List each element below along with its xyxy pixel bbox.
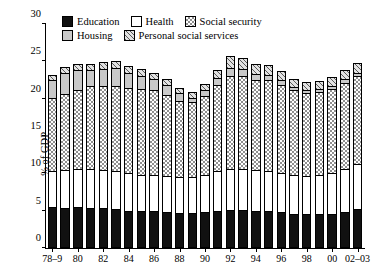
stacked-bar[interactable] [137, 69, 146, 248]
bar-group: 78–9808284868890929496980002–03 [46, 24, 364, 248]
x-tick-mark [103, 248, 104, 252]
bar-segment-health [48, 171, 57, 207]
stacked-bar[interactable] [251, 64, 260, 248]
bar-segment-education [99, 208, 108, 248]
bar-segment-social-security [353, 76, 362, 163]
stacked-bar[interactable] [289, 79, 298, 248]
bar-segment-personal-social-services [264, 65, 273, 75]
bar-slot [237, 24, 250, 248]
bar-segment-health [251, 170, 260, 210]
bar-segment-health [124, 173, 133, 210]
stacked-bar[interactable] [238, 58, 247, 248]
stacked-bar[interactable] [86, 64, 95, 248]
stacked-bar[interactable] [213, 70, 222, 248]
bar-segment-housing [48, 80, 57, 98]
bar-segment-health [340, 169, 349, 212]
bar-segment-social-security [175, 101, 184, 177]
bar-segment-education [200, 212, 209, 248]
bar-segment-health [327, 173, 336, 214]
bar-segment-personal-social-services [111, 61, 120, 68]
bar-segment-housing [86, 70, 95, 86]
bar-segment-education [86, 208, 95, 248]
stacked-bar[interactable] [111, 61, 120, 248]
stacked-bar[interactable] [315, 81, 324, 248]
stacked-bar[interactable] [264, 65, 273, 248]
bar-segment-health [137, 175, 146, 212]
y-tick-label-30: 30 [31, 8, 47, 19]
stacked-bar[interactable] [149, 73, 158, 248]
bar-slot: 96 [275, 24, 288, 248]
bar-segment-health [264, 171, 273, 211]
bar-segment-health [353, 164, 362, 210]
bar-segment-social-security [340, 83, 349, 169]
y-tick-label-0: 0 [36, 232, 46, 243]
bar-slot: 00 [326, 24, 339, 248]
bar-slot [84, 24, 97, 248]
bar-segment-health [302, 176, 311, 215]
stacked-bar[interactable] [226, 56, 235, 248]
bar-segment-housing [226, 68, 235, 76]
bar-segment-health [175, 177, 184, 213]
stacked-bar[interactable] [353, 63, 362, 248]
bar-segment-housing [73, 70, 82, 91]
x-tick-label: 90 [200, 253, 210, 264]
bar-segment-education [238, 210, 247, 248]
bar-slot: 80 [71, 24, 84, 248]
bar-segment-housing [60, 73, 69, 95]
stacked-bar[interactable] [48, 75, 57, 248]
x-tick-label: 84 [124, 253, 134, 264]
bar-segment-personal-social-services [99, 62, 108, 69]
bar-segment-personal-social-services [340, 70, 349, 80]
bar-segment-education [137, 211, 146, 248]
bar-slot: 84 [122, 24, 135, 248]
bar-segment-social-security [213, 85, 222, 172]
stacked-bar[interactable] [162, 79, 171, 248]
bar-segment-education [162, 212, 171, 248]
bar-segment-education [60, 208, 69, 248]
bar-slot [288, 24, 301, 248]
x-tick-mark [281, 248, 282, 252]
x-tick-mark [154, 248, 155, 252]
bar-slot: 82 [97, 24, 110, 248]
bar-segment-personal-social-services [226, 56, 235, 68]
stacked-bar[interactable] [99, 62, 108, 248]
bar-segment-social-security [302, 93, 311, 176]
stacked-bar[interactable] [188, 92, 197, 248]
bar-segment-personal-social-services [251, 64, 260, 74]
bar-segment-social-security [124, 88, 133, 173]
bar-segment-social-security [315, 92, 324, 175]
bar-slot: 90 [199, 24, 212, 248]
stacked-bar[interactable] [327, 77, 336, 248]
stacked-bar[interactable] [302, 82, 311, 248]
bar-segment-personal-social-services [200, 84, 209, 91]
bar-segment-social-security [99, 86, 108, 170]
bar-slot: 92 [224, 24, 237, 248]
x-tick-label: 96 [276, 253, 286, 264]
bar-segment-education [327, 214, 336, 248]
stacked-bar[interactable] [175, 88, 184, 248]
stacked-bar[interactable] [73, 64, 82, 248]
bar-segment-education [73, 207, 82, 248]
bar-segment-social-security [251, 80, 260, 170]
stacked-bar[interactable] [60, 67, 69, 248]
x-tick-label: 94 [251, 253, 261, 264]
bar-segment-personal-social-services [124, 66, 133, 73]
bar-segment-social-security [226, 76, 235, 169]
bar-segment-social-security [327, 89, 336, 173]
bar-segment-education [251, 211, 260, 248]
bar-segment-education [315, 214, 324, 248]
bar-segment-personal-social-services [149, 73, 158, 80]
stacked-bar[interactable] [277, 71, 286, 248]
bar-segment-social-security [162, 95, 171, 176]
stacked-bar[interactable] [200, 84, 209, 248]
bar-segment-housing [238, 69, 247, 76]
x-tick-label: 92 [225, 253, 235, 264]
stacked-bar[interactable] [124, 66, 133, 248]
stacked-bar[interactable] [340, 70, 349, 248]
bar-slot [135, 24, 148, 248]
x-tick-label: 88 [175, 253, 185, 264]
bar-segment-social-security [238, 76, 247, 169]
x-tick-label: 78–9 [42, 253, 62, 264]
x-tick-mark [332, 248, 333, 252]
x-tick-mark [230, 248, 231, 252]
